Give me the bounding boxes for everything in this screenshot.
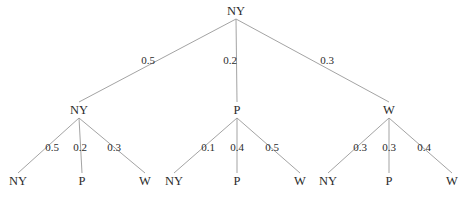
tree-leaf-ny-ny[interactable]: NY [9, 175, 27, 188]
edge-label-ny-to-ny: 0.5 [45, 142, 59, 153]
edge-label-ny-to-p: 0.2 [73, 142, 87, 153]
edge-label-ny-to-w: 0.3 [107, 142, 121, 153]
probability-tree-diagram: NY NY P W 0.5 0.2 0.3 NY P W 0.5 0.2 0.3… [0, 0, 469, 199]
edge-label-root-to-w: 0.3 [320, 55, 334, 66]
tree-node-level1-p[interactable]: P [234, 104, 241, 117]
tree-node-level1-ny[interactable]: NY [70, 104, 88, 117]
edge-label-w-to-w: 0.4 [417, 142, 431, 153]
edge-label-root-to-p: 0.2 [223, 55, 237, 66]
tree-leaf-w-w[interactable]: W [446, 175, 458, 188]
tree-node-level1-w[interactable]: W [383, 104, 395, 117]
tree-leaf-ny-w[interactable]: W [139, 175, 151, 188]
edge-label-p-to-w: 0.5 [265, 142, 279, 153]
tree-leaf-ny-p[interactable]: P [79, 175, 86, 188]
edge-label-p-to-p: 0.4 [230, 142, 244, 153]
edge-label-p-to-ny: 0.1 [201, 142, 215, 153]
edge-label-root-to-ny: 0.5 [141, 55, 155, 66]
tree-leaf-p-p[interactable]: P [234, 175, 241, 188]
tree-edges-layer [0, 0, 469, 199]
edge-label-w-to-ny: 0.3 [353, 142, 367, 153]
tree-leaf-w-ny[interactable]: NY [319, 175, 337, 188]
tree-leaf-w-p[interactable]: P [386, 175, 393, 188]
tree-leaf-p-ny[interactable]: NY [165, 175, 183, 188]
edge-label-w-to-p: 0.3 [382, 142, 396, 153]
tree-leaf-p-w[interactable]: W [294, 175, 306, 188]
tree-node-root[interactable]: NY [227, 5, 245, 18]
